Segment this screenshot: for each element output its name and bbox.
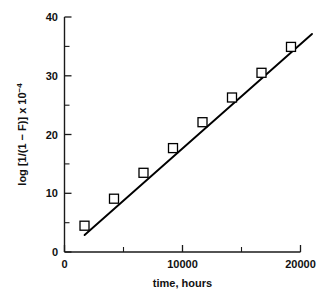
y-axis-title-main: log [1/(1 − F)] x 10 bbox=[16, 92, 28, 185]
x-tick-labels: 0 10000 20000 bbox=[61, 258, 315, 270]
data-point-marker bbox=[287, 42, 296, 51]
y-tick-label: 40 bbox=[46, 11, 58, 23]
y-tick-label: 30 bbox=[46, 70, 58, 82]
y-tick-label: 0 bbox=[52, 246, 58, 258]
data-point-marker bbox=[228, 93, 237, 102]
data-point-markers bbox=[80, 42, 296, 230]
fit-line bbox=[85, 34, 312, 235]
x-tick-label: 0 bbox=[61, 258, 67, 270]
y-tick-label: 10 bbox=[46, 187, 58, 199]
chart-canvas: 0 10 20 30 40 0 10000 20000 time, hours bbox=[0, 0, 331, 297]
y-axis-title-exponent: −4 bbox=[15, 83, 24, 93]
data-point-marker bbox=[257, 68, 266, 77]
data-point-marker bbox=[169, 144, 178, 153]
chart-figure: 0 10 20 30 40 0 10000 20000 time, hours bbox=[0, 0, 331, 297]
y-tick-label: 20 bbox=[46, 129, 58, 141]
data-point-marker bbox=[198, 118, 207, 127]
data-point-marker bbox=[110, 194, 119, 203]
x-tick-label: 10000 bbox=[167, 258, 198, 270]
x-axis-major-ticks bbox=[65, 245, 301, 252]
data-point-marker bbox=[80, 221, 89, 230]
y-axis-title: log [1/(1 − F)] x 10−4 bbox=[15, 83, 28, 186]
axes-group bbox=[65, 17, 301, 252]
y-tick-labels: 0 10 20 30 40 bbox=[46, 11, 58, 258]
x-axis-title: time, hours bbox=[153, 277, 212, 289]
data-point-marker bbox=[139, 168, 148, 177]
x-tick-label: 20000 bbox=[285, 258, 316, 270]
y-axis-major-ticks bbox=[65, 17, 72, 252]
